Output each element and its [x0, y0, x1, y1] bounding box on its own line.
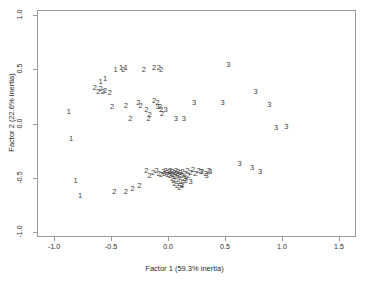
y-tick-mark [33, 232, 37, 233]
data-point: 2 [110, 103, 114, 111]
x-tick-mark [339, 237, 340, 241]
data-point: 3 [189, 178, 193, 186]
plot-area: 1111111112222222222222222222222222222222… [37, 10, 356, 237]
y-tick-label: -1.0 [16, 221, 23, 241]
data-point: 2 [121, 67, 125, 75]
data-point: 3 [208, 168, 212, 176]
data-point: 1 [103, 75, 107, 83]
data-point: 3 [267, 101, 271, 109]
y-tick-mark [33, 178, 37, 179]
data-point: 3 [156, 103, 160, 111]
data-point: 1 [74, 177, 78, 185]
y-tick-mark [33, 15, 37, 16]
data-point: 2 [159, 67, 163, 75]
x-tick-mark [282, 237, 283, 241]
x-tick-label: 1.5 [334, 243, 344, 250]
data-point: 2 [108, 89, 112, 97]
data-point: 3 [254, 88, 258, 96]
x-tick-mark [225, 237, 226, 241]
y-tick-label: 1.0 [16, 5, 23, 25]
data-point: 3 [179, 182, 183, 190]
data-point: 2 [103, 87, 107, 95]
y-tick-label: -0.5 [16, 167, 23, 187]
data-point: 1 [67, 108, 71, 116]
data-point: 3 [220, 99, 224, 107]
x-axis-label: Factor 1 (59.3% inertia) [0, 264, 369, 273]
y-tick-mark [33, 124, 37, 125]
data-point: 2 [112, 188, 116, 196]
data-point: 2 [152, 65, 156, 73]
data-point: 3 [164, 107, 168, 115]
x-tick-mark [111, 237, 112, 241]
data-point: 2 [124, 188, 128, 196]
data-point: 1 [69, 135, 73, 143]
data-point: 3 [192, 99, 196, 107]
x-tick-mark [168, 237, 169, 241]
data-point: 3 [238, 161, 242, 169]
y-axis-label: Factor 2 (22.6% inertia) [7, 48, 16, 178]
data-point: 3 [284, 123, 288, 131]
scatter-plot-figure: 1111111112222222222222222222222222222222… [0, 0, 369, 282]
data-point: 3 [274, 124, 278, 132]
data-point: 3 [258, 168, 262, 176]
data-point: 2 [142, 67, 146, 75]
y-tick-mark [33, 69, 37, 70]
data-point: 3 [250, 164, 254, 172]
data-point: 2 [124, 102, 128, 110]
y-tick-label: 0.5 [16, 59, 23, 79]
data-point: 3 [199, 168, 203, 176]
data-point: 3 [226, 61, 230, 69]
data-point: 2 [148, 111, 152, 119]
data-point: 2 [130, 186, 134, 194]
x-tick-label: 0.0 [163, 243, 173, 250]
data-point: 2 [138, 102, 142, 110]
data-point: 3 [174, 115, 178, 123]
data-point: 1 [113, 67, 117, 75]
x-tick-label: -1.0 [48, 243, 60, 250]
y-tick-label: 0.0 [16, 113, 23, 133]
data-point: 2 [137, 182, 141, 190]
x-tick-label: 1.0 [277, 243, 287, 250]
data-point: 3 [183, 175, 187, 183]
x-tick-label: 0.5 [220, 243, 230, 250]
data-point: 1 [78, 192, 82, 200]
data-point: 2 [128, 115, 132, 123]
x-tick-mark [54, 237, 55, 241]
x-tick-label: -0.5 [105, 243, 117, 250]
data-point: 3 [182, 115, 186, 123]
